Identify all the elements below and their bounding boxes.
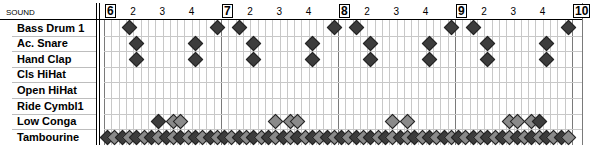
beat-number: 2	[247, 6, 253, 17]
note-diamond[interactable]	[129, 51, 145, 67]
note-diamond[interactable]	[305, 51, 321, 67]
row-line	[104, 67, 582, 68]
note-diamond[interactable]	[122, 20, 138, 36]
beat-number: 2	[130, 6, 136, 17]
note-diamond[interactable]	[480, 36, 496, 52]
beat-number: 4	[540, 6, 546, 17]
row-line	[104, 51, 582, 52]
row-separator	[12, 129, 96, 130]
sound-name-open-hihat[interactable]: Open HiHat	[17, 84, 77, 96]
note-diamond[interactable]	[327, 20, 343, 36]
sound-name-bass-drum[interactable]: Bass Drum 1	[17, 22, 84, 34]
column-divider	[99, 3, 100, 145]
note-diamond[interactable]	[305, 36, 321, 52]
note-diamond[interactable]	[363, 36, 379, 52]
note-diamond[interactable]	[268, 114, 284, 130]
note-diamond[interactable]	[561, 20, 577, 36]
row-line	[104, 82, 582, 83]
bar-number-marker[interactable]: 6	[105, 4, 116, 18]
note-diamond[interactable]	[466, 20, 482, 36]
bar-number-marker[interactable]: 7	[222, 4, 233, 18]
note-diamond[interactable]	[349, 20, 365, 36]
note-diamond[interactable]	[232, 20, 248, 36]
beat-number: 3	[394, 6, 400, 17]
note-diamond[interactable]	[246, 36, 262, 52]
note-diamond[interactable]	[246, 51, 262, 67]
note-diamond[interactable]	[129, 36, 145, 52]
note-diamond[interactable]	[188, 36, 204, 52]
note-diamond[interactable]	[210, 20, 226, 36]
row-separator	[12, 67, 96, 68]
bar-number-marker[interactable]: 8	[339, 4, 350, 18]
row-separator	[12, 51, 96, 52]
note-diamond[interactable]	[422, 36, 438, 52]
sound-name-low-conga[interactable]: Low Conga	[17, 115, 76, 127]
note-diamond[interactable]	[444, 20, 460, 36]
beat-number: 3	[160, 6, 166, 17]
note-diamond[interactable]	[385, 114, 401, 130]
row-line	[104, 98, 582, 99]
row-separator	[12, 82, 96, 83]
row-line	[104, 36, 582, 37]
beat-number: 3	[511, 6, 517, 17]
note-diamond[interactable]	[539, 51, 555, 67]
beat-number: 4	[306, 6, 312, 17]
note-diamond[interactable]	[539, 36, 555, 52]
beat-number: 4	[423, 6, 429, 17]
row-separator	[12, 98, 96, 99]
bar-number-marker[interactable]: 9	[456, 4, 467, 18]
beat-number: 4	[189, 6, 195, 17]
sound-name-hand-clap[interactable]: Hand Clap	[17, 53, 71, 65]
row-separator	[12, 114, 96, 115]
bar-number-marker[interactable]: 10	[573, 4, 590, 18]
sound-column-header: SOUND	[6, 8, 35, 17]
column-divider	[96, 3, 97, 145]
note-diamond[interactable]	[400, 114, 416, 130]
note-diamond[interactable]	[363, 51, 379, 67]
note-diamond[interactable]	[422, 51, 438, 67]
sound-name-tambourine[interactable]: Tambourine	[17, 131, 79, 143]
row-separator	[12, 36, 96, 37]
grid-right-edge	[582, 3, 583, 145]
sound-name-ride-cymbal[interactable]: Ride Cymbl1	[17, 100, 84, 112]
beat-number: 2	[364, 6, 370, 17]
beat-number: 3	[277, 6, 283, 17]
note-diamond[interactable]	[480, 51, 496, 67]
sound-name-cls-hihat[interactable]: Cls HiHat	[17, 68, 66, 80]
note-diamond[interactable]	[188, 51, 204, 67]
note-diamond[interactable]	[151, 114, 167, 130]
sound-name-ac-snare[interactable]: Ac. Snare	[17, 37, 68, 49]
beat-number: 2	[481, 6, 487, 17]
step-grid[interactable]	[104, 20, 572, 145]
